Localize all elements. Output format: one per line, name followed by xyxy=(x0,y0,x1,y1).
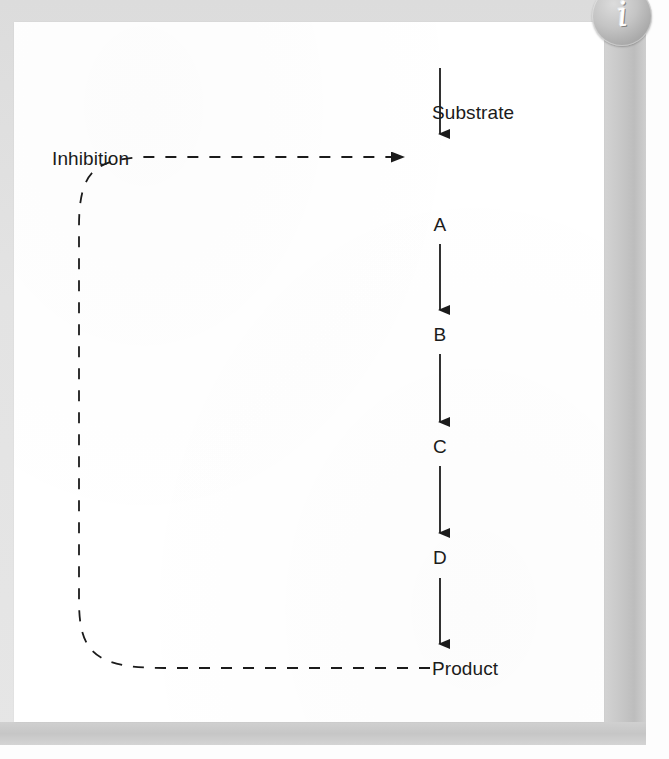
node-label-product: Product xyxy=(432,658,498,680)
node-label-c: C xyxy=(426,436,454,458)
page-bottom-margin xyxy=(0,745,669,759)
figure-page: Substrate A B C D Product Inhibition i xyxy=(0,0,669,759)
edge-label-inhibition: Inhibition xyxy=(52,148,129,170)
node-label-d: D xyxy=(426,547,454,569)
node-label-b: B xyxy=(426,324,454,346)
figure-canvas: Substrate A B C D Product Inhibition xyxy=(14,22,604,722)
page-right-shadow-band xyxy=(604,0,646,748)
feedback-inhibition-dashed-path xyxy=(79,157,430,668)
pathway-diagram xyxy=(14,22,604,722)
page-right-margin xyxy=(646,0,669,759)
node-label-substrate: Substrate xyxy=(432,102,514,124)
script-letter-icon: i xyxy=(615,0,629,31)
node-label-a: A xyxy=(426,214,454,236)
